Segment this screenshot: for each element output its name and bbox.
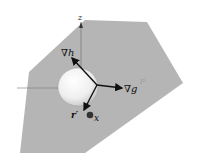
constraint-plane (20, 20, 183, 153)
label-grad-h: ∇h (61, 47, 74, 58)
sphere (58, 68, 98, 106)
label-grad-g: ∇g (124, 83, 137, 94)
diagram-canvas: z ∇h ∇g r′ x P (0, 0, 197, 163)
label-x: x (94, 113, 99, 123)
label-z: z (77, 13, 83, 22)
label-faint-p: P (139, 78, 145, 86)
label-r-prime: r′ (71, 110, 79, 120)
point-x (87, 112, 94, 119)
